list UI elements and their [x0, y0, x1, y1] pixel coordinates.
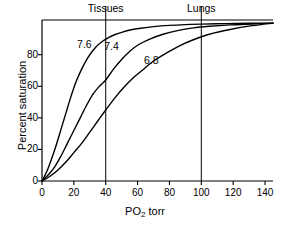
curve-label-ph-6.8: 6.8	[144, 55, 159, 66]
y-axis-title: Percent saturation	[17, 46, 28, 166]
x-tick-label: 60	[132, 188, 143, 198]
x-tick-label: 40	[100, 188, 111, 198]
marker-label-lungs: Lungs	[187, 3, 216, 14]
oxygen-dissociation-chart: 020406080100120140 020406080 TissuesLung…	[0, 0, 290, 225]
x-tick-label: 140	[257, 188, 274, 198]
curve-label-ph-7.6: 7.6	[77, 39, 92, 50]
x-axis-title: PO2 torr	[125, 206, 165, 217]
y-tick-label: 0	[18, 176, 38, 186]
x-axis-title-subscript: 2	[141, 210, 145, 219]
x-tick-label: 20	[68, 188, 79, 198]
curve-label-ph-7.4: 7.4	[104, 41, 119, 52]
axis-ticks	[38, 55, 265, 185]
marker-label-tissues: Tissues	[88, 3, 124, 14]
x-axis-title-base: PO	[125, 205, 141, 217]
x-axis-title-unit: torr	[145, 205, 165, 217]
x-tick-label: 100	[193, 188, 210, 198]
x-tick-label: 80	[164, 188, 175, 198]
x-tick-label: 0	[39, 188, 45, 198]
x-tick-label: 120	[225, 188, 242, 198]
